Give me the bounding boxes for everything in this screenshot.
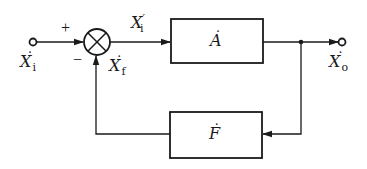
plus-sign: + <box>61 20 70 36</box>
feedback-return-line <box>96 56 170 134</box>
input-terminal <box>30 39 37 46</box>
feedback-block-diagram: + − ˙Xi X′i ˙Xf ˙A ˙F ˙Xo <box>0 0 367 169</box>
diagram-graphics <box>0 0 367 169</box>
minus-sign: − <box>73 52 82 68</box>
feedback-sampling-line <box>263 42 301 134</box>
net-input-label: X′i <box>131 13 143 34</box>
feedback-signal-label: ˙Xf <box>109 58 125 77</box>
forward-block-label: ˙A <box>210 33 222 49</box>
output-label: ˙Xo <box>329 54 348 73</box>
input-label: ˙Xi <box>20 54 36 73</box>
summing-junction <box>84 29 110 55</box>
feedback-block-label: ˙F <box>209 126 220 142</box>
output-terminal <box>339 39 346 46</box>
